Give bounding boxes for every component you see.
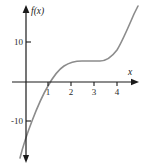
y-axis-label: f(x) <box>31 6 44 17</box>
x-axis-label: x <box>127 67 133 77</box>
y-axis-arrow-up-icon <box>23 5 30 13</box>
x-axis-group: 1 2 3 4 x <box>12 67 139 97</box>
x-tick-label-4: 4 <box>115 87 120 97</box>
x-axis-arrow-right-icon <box>131 79 139 86</box>
x-tick-label-3: 3 <box>92 87 97 97</box>
x-tick-label-1: 1 <box>46 87 51 97</box>
function-graph-figure: 10 -10 f(x) 1 2 3 4 x <box>0 0 152 165</box>
y-axis-group: 10 -10 f(x) <box>11 5 44 163</box>
y-tick-label-10: 10 <box>14 37 24 47</box>
graph-canvas: 10 -10 f(x) 1 2 3 4 x <box>0 0 152 165</box>
x-tick-label-2: 2 <box>69 87 74 97</box>
y-tick-label-neg10: -10 <box>11 116 23 126</box>
y-axis-arrow-down-icon <box>23 155 29 163</box>
